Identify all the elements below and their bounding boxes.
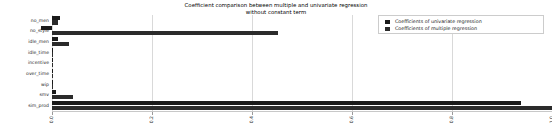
chart-figure: Coefficient comparison between multiple … [0,0,552,139]
x-tick-mark-0.8 [452,112,453,115]
x-tick-mark-0.4 [252,112,253,115]
bar-idle_time-multiple [52,52,53,56]
bar-row-incentive [52,58,552,69]
bar-idle_men-univariate [52,37,58,41]
bar-sim_prod-univariate [52,101,521,105]
y-tick-label-smv: smv [1,92,49,97]
bar-row-sim_prod [52,100,552,111]
y-tick-label-no_men: no_men [1,18,49,23]
bar-wip-univariate [52,80,53,84]
bar-row-wip [52,79,552,90]
legend-swatch-multiple-icon [385,27,390,31]
legend-item-univariate: Coefficients of univariate regression [382,19,540,25]
bar-incentive-multiple [52,63,53,67]
legend-label-multiple: Coefficients of multiple regression [395,26,477,32]
bar-incentive-univariate [52,58,53,62]
legend-label-univariate: Coefficients of univariate regression [395,19,482,25]
bar-wip-multiple [52,84,53,88]
legend-swatch-univariate-icon [385,20,390,24]
y-tick-label-incentive: incentive [1,60,49,65]
bar-sim_prod-multiple [52,106,552,110]
y-tick-label-over_time: over_time [1,71,49,76]
x-axis-tick-labels: 0.00.20.40.60.81.0 [52,112,552,138]
y-tick-label-wip: wip [1,82,49,87]
bar-idle_men-multiple [52,42,69,46]
chart-title: Coefficient comparison between multiple … [0,2,552,16]
chart-title-line1: Coefficient comparison between multiple … [185,2,368,8]
bar-smv-multiple [52,95,73,99]
bar-no_men-univariate [52,16,60,20]
bar-idle_time-univariate [52,48,53,52]
bar-row-idle_men [52,36,552,47]
bar-row-over_time [52,68,552,79]
bar-no_style-multiple [52,31,278,35]
x-tick-mark-0.0 [52,112,53,115]
bar-over_time-univariate [52,69,53,73]
y-tick-label-sim_prod: sim_prod [1,103,49,108]
legend-item-multiple: Coefficients of multiple regression [382,26,540,32]
bar-over_time-multiple [52,74,53,78]
y-tick-label-idle_men: idle_men [1,39,49,44]
chart-legend: Coefficients of univariate regression Co… [378,15,544,34]
bar-no_men-multiple [52,20,58,24]
bar-smv-univariate [52,90,56,94]
bar-row-smv [52,90,552,101]
bar-row-idle_time [52,47,552,58]
bar-no_style-univariate [41,26,52,30]
x-tick-mark-0.6 [352,112,353,115]
y-tick-label-idle_time: idle_time [1,50,49,55]
x-tick-mark-0.2 [152,112,153,115]
